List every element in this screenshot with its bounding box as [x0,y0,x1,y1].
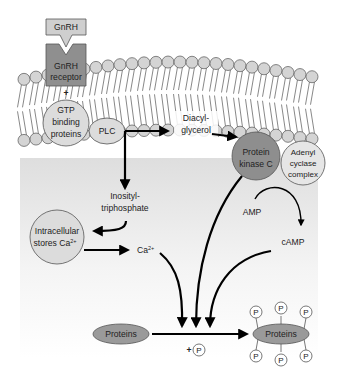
svg-text:P: P [253,308,258,317]
plc-node: PLC [89,118,125,144]
svg-text:Proteins: Proteins [265,329,297,339]
svg-text:Adenyl: Adenyl [291,148,316,157]
svg-text:P: P [196,346,201,355]
svg-text:P: P [253,352,258,361]
svg-text:P: P [278,304,283,313]
adenyl-cyclase-node: Adenyl cyclase complex [281,141,325,185]
svg-text:triphosphate: triphosphate [101,203,149,213]
svg-text:glycerol: glycerol [181,125,211,135]
svg-text:Inosityl-: Inosityl- [110,191,140,201]
phosphate-group: P [275,302,287,314]
gnrh-signaling-diagram: GnRH GnRH receptor + GTP binding protein… [0,0,341,384]
svg-text:Diacyl-: Diacyl- [183,113,209,123]
svg-text:GTP: GTP [57,105,75,115]
gnrh-ligand: GnRH [46,19,86,47]
protein-kinase-c-node: Protein kinase C [232,132,280,180]
gnrh-label: GnRH [54,22,78,32]
svg-text:kinase C: kinase C [239,159,272,169]
receptor-label-2: receptor [50,72,82,82]
receptor-label-1: GnRH [54,61,78,71]
phosphate-group: P [250,350,262,362]
svg-text:stores Ca2+: stores Ca2+ [33,238,76,248]
svg-text:+: + [186,345,191,355]
plus-phosphate: + P [186,344,205,356]
svg-text:P: P [278,356,283,365]
phosphate-group: P [300,350,312,362]
svg-text:PLC: PLC [99,126,116,136]
camp-label: cAMP [282,237,305,247]
svg-text:cyclase: cyclase [290,159,317,168]
proteins-input-node: Proteins [93,324,149,344]
phosphate-group: P [300,306,312,318]
svg-text:complex: complex [288,170,318,179]
amp-label: AMP [243,207,262,217]
svg-text:P: P [303,352,308,361]
gnrh-receptor: GnRH receptor [46,44,86,86]
svg-text:Protein: Protein [242,147,269,157]
svg-text:proteins: proteins [51,129,82,139]
phosphate-group: P [250,306,262,318]
svg-text:Proteins: Proteins [105,329,137,339]
svg-text:P: P [303,308,308,317]
phosphate-group: P [275,354,287,366]
phosphorylated-proteins-node: Proteins P P P P P P [250,302,312,366]
svg-text:Intracellular: Intracellular [35,226,80,236]
svg-text:binding: binding [52,117,80,127]
plus-sign: + [63,88,68,98]
diacylglycerol-label: Diacyl- glycerol [174,111,218,139]
intracellular-stores-node: Intracellular stores Ca2+ [30,210,84,264]
gtp-binding-proteins-node: GTP binding proteins [43,100,89,146]
